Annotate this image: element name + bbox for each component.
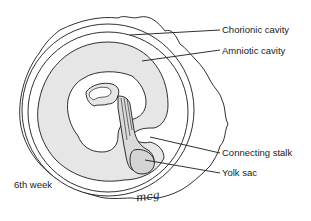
label-amniotic-cavity: Amniotic cavity	[222, 46, 285, 56]
label-yolk-sac: Yolk sac	[222, 168, 257, 178]
label-connecting-stalk: Connecting stalk	[222, 148, 292, 158]
label-chorionic-cavity: Chorionic cavity	[222, 25, 289, 35]
diagram-caption: 6th week	[14, 180, 52, 190]
